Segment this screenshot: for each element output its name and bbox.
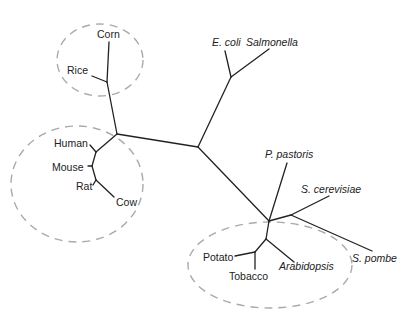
branch-center-to-right-hub	[198, 147, 269, 221]
label-arabidopsis: Arabidopsis	[278, 260, 335, 272]
branch-human	[90, 145, 96, 152]
branch-left-to-mammals	[96, 134, 117, 152]
branch-p-pastoris	[269, 163, 287, 221]
label-rice: Rice	[67, 64, 88, 76]
branch-hub-to-plants	[266, 221, 269, 239]
label-p-pastoris: P. pastoris	[265, 148, 314, 160]
phylogenetic-tree: Corn Rice Human Mouse Rat Cow E. coli Sa…	[0, 0, 402, 319]
branch-potato	[235, 252, 255, 256]
label-cow: Cow	[116, 196, 137, 208]
branch-rice	[92, 76, 107, 82]
branch-corn	[107, 42, 109, 82]
label-mouse: Mouse	[52, 161, 84, 173]
label-ecoli: E. coli	[212, 36, 241, 48]
branch-salmonella	[231, 49, 269, 77]
branch-s-cerevisiae	[291, 196, 329, 215]
label-tobacco: Tobacco	[229, 270, 268, 282]
branch-cow	[96, 180, 114, 197]
branch-left-to-cereals	[107, 82, 117, 134]
label-salmonella: Salmonella	[246, 36, 298, 48]
branch-mouse-to-rat	[92, 166, 96, 180]
label-potato: Potato	[203, 251, 234, 263]
branch-hub-to-yeast	[269, 215, 291, 221]
branch-center-to-bacteria	[198, 77, 231, 147]
branch-left-to-center	[117, 134, 198, 147]
branch-arabidopsis	[266, 239, 294, 262]
label-s-cerevisiae: S. cerevisiae	[301, 183, 361, 195]
branch-s-pombe	[291, 215, 372, 251]
label-human: Human	[54, 137, 88, 149]
branch-plants-to-solanaceae	[255, 239, 266, 252]
label-s-pombe: S. pombe	[352, 252, 397, 264]
label-rat: Rat	[76, 180, 92, 192]
branch-rat	[93, 180, 96, 185]
branch-ecoli	[225, 51, 231, 77]
branch-human-to-rodent	[92, 152, 96, 166]
label-corn: Corn	[97, 28, 120, 40]
